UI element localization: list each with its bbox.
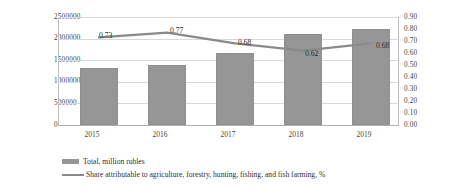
right-axis-tick: 0.20 bbox=[404, 97, 417, 105]
right-axis-tick: 0.40 bbox=[404, 73, 417, 81]
data-label-2018: 0.62 bbox=[305, 49, 318, 58]
x-axis-line bbox=[58, 125, 399, 126]
x-axis-tick-2017: 2017 bbox=[197, 130, 259, 139]
right-axis-tick: 0.80 bbox=[404, 25, 417, 33]
data-label-2015: 0.73 bbox=[99, 31, 112, 40]
data-label-2017: 0.68 bbox=[238, 38, 251, 47]
right-axis-tick: 0.60 bbox=[404, 49, 417, 57]
right-axis-tick: 0.00 bbox=[404, 121, 417, 129]
legend-label-share: Share attributable to agriculture, fores… bbox=[86, 170, 325, 179]
right-axis-tick: 0.10 bbox=[404, 109, 417, 117]
legend-item-share[interactable]: Share attributable to agriculture, fores… bbox=[62, 168, 422, 181]
right-axis-tick: 0.90 bbox=[404, 13, 417, 21]
x-axis-tick-2016: 2016 bbox=[129, 130, 191, 139]
plot-area: 0.73 0.77 0.68 0.62 0.68 bbox=[58, 17, 398, 125]
right-axis-tick: 0.30 bbox=[404, 85, 417, 93]
data-label-2016: 0.77 bbox=[170, 26, 183, 35]
legend-swatch-line-icon bbox=[62, 174, 84, 176]
x-axis-tick-2018: 2018 bbox=[265, 130, 327, 139]
x-axis-tick-2019: 2019 bbox=[333, 130, 395, 139]
right-axis-tick: 0.70 bbox=[404, 37, 417, 45]
right-axis-tick: 0.50 bbox=[404, 61, 417, 69]
right-axis-line bbox=[398, 17, 399, 125]
legend-label-total: Total, million rubles bbox=[83, 157, 145, 166]
x-axis-tick-2015: 2015 bbox=[61, 130, 123, 139]
chart-container: 2500000 2000000 1500000 1000000 500000 0… bbox=[0, 0, 460, 195]
legend-swatch-bar-icon bbox=[62, 159, 79, 164]
legend-item-total[interactable]: Total, million rubles bbox=[62, 155, 422, 168]
data-label-2019: 0.68 bbox=[376, 41, 389, 50]
chart-legend: Total, million rubles Share attributable… bbox=[62, 155, 422, 181]
